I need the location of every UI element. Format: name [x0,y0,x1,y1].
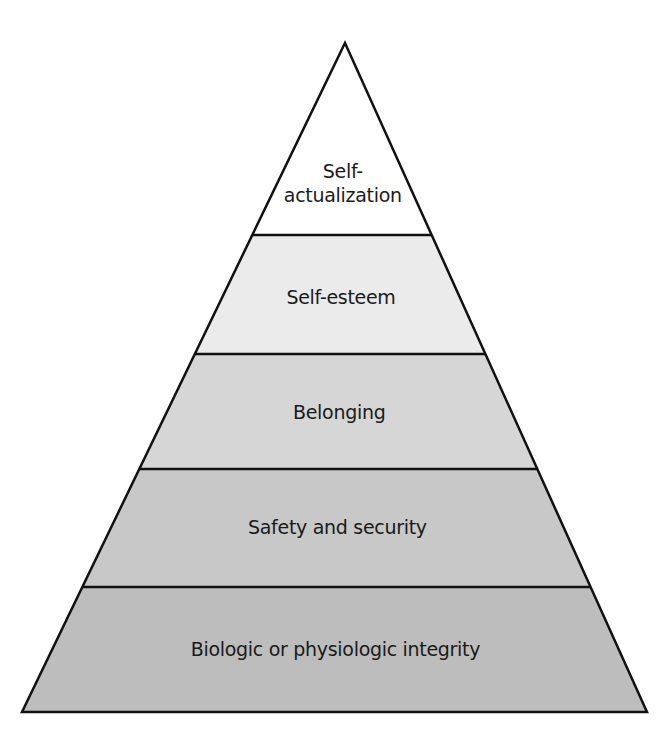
level-label-self-esteem: Self-esteem [286,285,395,309]
level-label-belonging: Belonging [293,400,385,424]
label-line: Belonging [293,400,385,424]
label-line: Self-esteem [286,285,395,309]
pyramid-diagram: Self- actualization Self-esteem Belongin… [0,0,671,735]
label-line: Biologic or physiologic integrity [191,637,480,661]
level-label-safety-security: Safety and security [248,515,427,539]
label-line: Safety and security [248,515,427,539]
level-label-self-actualization: Self- actualization [284,159,402,207]
level-label-physiologic-integrity: Biologic or physiologic integrity [191,637,480,661]
label-line: actualization [284,183,402,207]
label-line: Self- [284,159,402,183]
pyramid-shape [0,0,671,735]
